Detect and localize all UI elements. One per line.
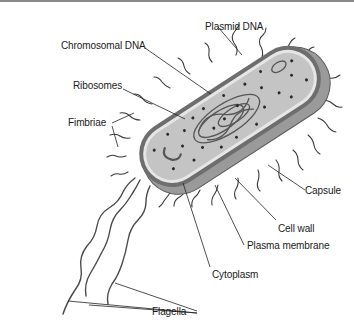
label-flagella: Flagella — [152, 306, 186, 318]
label-plasma-membrane: Plasma membrane — [247, 240, 329, 252]
label-chromosomal-dna: Chromosomal DNA — [61, 40, 146, 52]
label-plasmid-dna: Plasmid DNA — [205, 21, 263, 33]
flagella-group — [63, 178, 150, 314]
bacterial-cell-diagram — [0, 0, 354, 336]
label-capsule: Capsule — [305, 185, 341, 197]
label-cell-wall: Cell wall — [278, 223, 314, 235]
label-ribosomes: Ribosomes — [73, 80, 122, 92]
label-fimbriae: Fimbriae — [68, 117, 106, 129]
label-cytoplasm: Cytoplasm — [212, 269, 258, 281]
